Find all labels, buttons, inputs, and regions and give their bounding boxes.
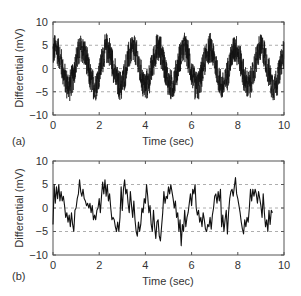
x-tick-label: 2: [96, 119, 102, 131]
x-tick-label: 6: [189, 119, 195, 131]
x-tick-label: 0: [50, 259, 56, 271]
y-axis-title-b: Differential (mV): [13, 168, 25, 247]
x-tick-label: 0: [50, 119, 56, 131]
panel-label-b: (b): [12, 270, 25, 282]
y-tick-label: 5: [42, 178, 48, 190]
y-tick-label: −10: [29, 109, 48, 121]
y-axis-title-a: Differential (mV): [13, 28, 25, 107]
signal-line-a: [53, 33, 284, 101]
x-tick-label: 8: [235, 119, 241, 131]
panel-a: 10 5 0 −5 −10 0 2 4 6 8 10 Time (sec) Di…: [12, 16, 290, 147]
x-tick-label: 4: [142, 119, 148, 131]
x-axis-title-b: Time (sec): [142, 275, 194, 287]
x-tick-label: 6: [189, 259, 195, 271]
y-tick-label: −5: [35, 86, 48, 98]
x-axis-title-a: Time (sec): [142, 135, 194, 147]
y-tick-label: −5: [35, 225, 48, 237]
y-tick-label: 10: [36, 16, 48, 28]
y-tick-label: 0: [42, 202, 48, 214]
x-tick-label: 4: [142, 259, 148, 271]
panel-label-a: (a): [12, 135, 25, 147]
x-tick-label: 2: [96, 259, 102, 271]
x-tick-label: 8: [235, 259, 241, 271]
panel-b: 10 5 0 −5 −10 0 2 4 6 8 10 Time (sec) Di…: [12, 155, 290, 287]
x-tick-label: 10: [278, 259, 290, 271]
y-tick-label: 5: [42, 39, 48, 51]
y-tick-label: 10: [36, 155, 48, 167]
x-tick-label: 10: [278, 119, 290, 131]
figure: 10 5 0 −5 −10 0 2 4 6 8 10 Time (sec) Di…: [0, 0, 301, 296]
signal-line-b: [53, 177, 272, 245]
y-tick-label: 0: [42, 63, 48, 75]
y-tick-label: −10: [29, 249, 48, 261]
